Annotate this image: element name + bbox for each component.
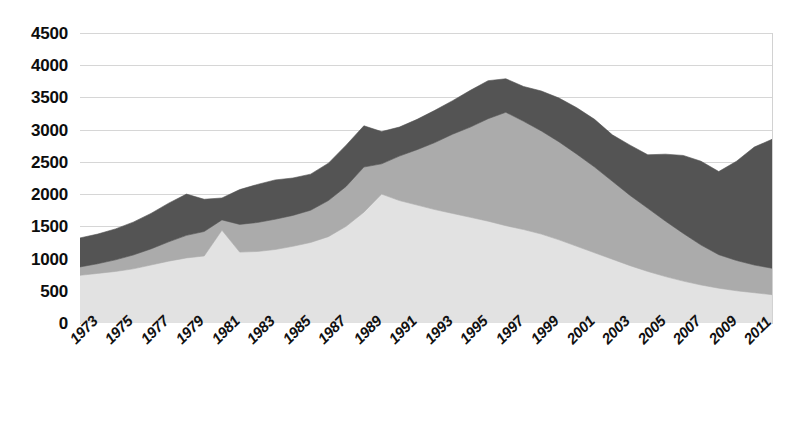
x-tick-1979: 1979 [172, 312, 207, 347]
x-tick-1983: 1983 [243, 312, 278, 347]
x-tick-1987: 1987 [314, 312, 349, 347]
x-tick-2009: 2009 [705, 312, 740, 347]
x-tick-1999: 1999 [527, 312, 562, 347]
x-tick-1993: 1993 [421, 312, 456, 347]
x-tick-2011: 2011 [740, 313, 774, 347]
x-tick-1997: 1997 [492, 312, 527, 347]
x-tick-1995: 1995 [456, 312, 491, 347]
x-tick-1973: 1973 [66, 312, 101, 347]
x-tick-1991: 1991 [385, 312, 420, 347]
x-tick-1977: 1977 [137, 312, 172, 347]
x-tick-1981: 1981 [208, 312, 243, 347]
x-tick-2003: 2003 [598, 312, 633, 347]
x-tick-1989: 1989 [350, 312, 385, 347]
x-tick-2007: 2007 [669, 312, 704, 347]
x-tick-1985: 1985 [279, 312, 314, 347]
x-tick-2001: 2001 [563, 312, 598, 347]
chart-root: 450040003500300025002000150010005000 197… [0, 0, 792, 442]
x-axis-tick-labels: 1973197519771979198119831985198719891991… [0, 0, 792, 442]
x-tick-1975: 1975 [101, 312, 136, 347]
x-tick-2005: 2005 [634, 312, 669, 347]
